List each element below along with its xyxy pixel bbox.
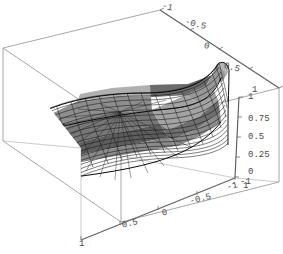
mesh-line [32, 122, 64, 124]
surface-patch-dark [29, 113, 44, 128]
mesh-line [30, 118, 46, 181]
tick-y-1 [279, 86, 283, 88]
box-top-edge-back-left [3, 10, 160, 48]
surface-patch [40, 136, 62, 168]
fold-edge-left [27, 118, 46, 181]
corner-label-right-bottom-1: 1 [243, 182, 248, 191]
tick-label-z-0-25: 0.25 [248, 151, 270, 160]
plot-canvas [0, 0, 283, 254]
surface-patch [24, 118, 47, 152]
x-axis-spine [81, 178, 235, 240]
surface-patch [38, 160, 70, 180]
mesh-line [36, 124, 64, 157]
axis-floor-lines [3, 141, 279, 240]
surface-patch-dark [44, 176, 70, 185]
surface-patch-dark [25, 165, 46, 183]
mesh-line [52, 124, 64, 177]
tick-label-z-0: 0 [248, 168, 253, 177]
floor-line-left-diagonal [3, 141, 81, 148]
tick-label-x-1: 1 [79, 240, 84, 249]
tick-marks-vertical-axis [235, 97, 243, 177]
tick-label-z-1: 1 [248, 93, 253, 102]
mesh-line [31, 124, 64, 145]
surface-plot-figure: -1 -0.5 0 0.5 1 1 0.75 0.5 0.25 0 -1 1 -… [0, 0, 283, 254]
tick-label-z-0-5: 0.5 [248, 133, 264, 142]
tick-label-z-0-75: 0.75 [248, 115, 270, 124]
mesh-line [30, 124, 64, 133]
surface-mesh [24, 62, 229, 185]
